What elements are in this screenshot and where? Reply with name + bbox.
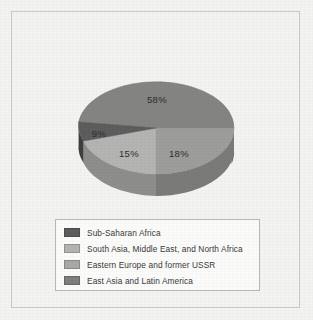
legend-label-sub-saharan-africa: Sub-Saharan Africa (87, 228, 161, 238)
chart-legend: Sub-Saharan Africa South Asia, Middle Ea… (55, 219, 260, 291)
legend-item-eastern-europe-and-former-ussr[interactable]: Eastern Europe and former USSR (62, 257, 253, 272)
slice-label-east-asia: 58% (147, 94, 167, 105)
legend-swatch-south-asia-middle-east-and-north-africa (64, 244, 80, 253)
legend-label-east-asia-and-latin-america: East Asia and Latin America (87, 276, 193, 286)
slice-label-eastern-europe: 18% (169, 148, 189, 159)
legend-label-south-asia-middle-east-and-north-africa: South Asia, Middle East, and North Afric… (87, 244, 243, 254)
legend-item-sub-saharan-africa[interactable]: Sub-Saharan Africa (62, 225, 253, 240)
legend-swatch-eastern-europe-and-former-ussr (64, 260, 80, 269)
legend-swatch-east-asia-and-latin-america (64, 276, 80, 285)
legend-label-eastern-europe-and-former-ussr: Eastern Europe and former USSR (87, 260, 215, 270)
slice-label-sub-saharan-africa: 9% (92, 128, 107, 139)
chart-figure: 58% 18% 15% 9% Sub-Saharan Africa South … (0, 0, 313, 320)
legend-item-east-asia-and-latin-america[interactable]: East Asia and Latin America (62, 273, 253, 288)
legend-swatch-sub-saharan-africa (64, 228, 80, 237)
slice-label-south-asia: 15% (119, 148, 139, 159)
legend-item-south-asia-middle-east-and-north-africa[interactable]: South Asia, Middle East, and North Afric… (62, 241, 253, 256)
